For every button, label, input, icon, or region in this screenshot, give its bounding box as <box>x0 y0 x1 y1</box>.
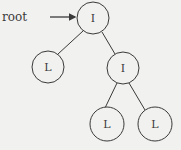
tree-node-left-leaf: L <box>32 51 64 83</box>
edge-n2-n4 <box>129 83 145 110</box>
node-label: I <box>91 12 95 25</box>
tree-node-root: I <box>77 2 109 34</box>
root-pointer: root <box>2 10 75 24</box>
tree-node-bottom-left-leaf: L <box>90 107 124 141</box>
edge-n0-n1 <box>58 31 83 54</box>
edge-n0-n2 <box>102 32 115 54</box>
root-label: root <box>2 10 27 24</box>
tree-node-bottom-right-leaf: L <box>138 107 172 141</box>
node-label: L <box>103 118 111 131</box>
tree-canvas: root I L I L L <box>0 0 181 150</box>
edge-n2-n3 <box>105 83 117 108</box>
binary-tree-diagram: root I L I L L <box>0 0 181 150</box>
node-label: L <box>151 118 159 131</box>
node-label: I <box>121 62 125 75</box>
node-label: L <box>44 61 52 74</box>
tree-node-right-internal: I <box>107 52 139 84</box>
